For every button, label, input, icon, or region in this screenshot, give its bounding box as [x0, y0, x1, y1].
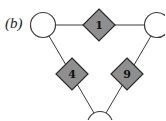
- factor-graph-diagram: 1 4 9 (b): [0, 0, 165, 120]
- variable-node-top-left: [31, 13, 56, 38]
- factor-label-left: 4: [68, 68, 76, 81]
- factor-node-left: 4: [56, 58, 88, 90]
- variable-node-bottom: [88, 112, 113, 121]
- panel-label: (b): [5, 15, 23, 32]
- factor-node-right: 9: [111, 58, 143, 90]
- factor-node-top: 1: [83, 9, 115, 41]
- factor-label-right: 9: [123, 68, 131, 81]
- variable-node-top-right: [145, 13, 166, 38]
- factor-label-top: 1: [95, 19, 103, 32]
